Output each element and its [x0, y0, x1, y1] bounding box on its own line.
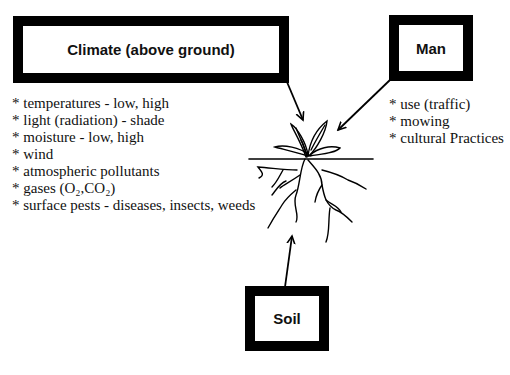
list-item: * surface pests - diseases, insects, wee… [12, 197, 255, 214]
man-label: Man [416, 40, 446, 57]
man-factors-list: * use (traffic) * mowing * cultural Prac… [389, 96, 504, 147]
list-item: * temperatures - low, high [12, 95, 255, 112]
soil-box: Soil [245, 286, 329, 351]
soil-label: Soil [273, 310, 301, 327]
climate-label: Climate (above ground) [67, 41, 235, 58]
list-item: * wind [12, 146, 255, 163]
arrow-man-to-plant [338, 79, 391, 130]
climate-box: Climate (above ground) [13, 16, 289, 83]
arrow-climate-to-plant [287, 82, 303, 120]
list-item: * gases (O₂,CO₂) [12, 180, 255, 197]
list-item: * atmospheric pollutants [12, 163, 255, 180]
list-item: * light (radiation) - shade [12, 112, 255, 129]
plant-illustration [249, 121, 373, 242]
list-item: * use (traffic) [389, 96, 504, 113]
list-item: * cultural Practices [389, 130, 504, 147]
man-box: Man [389, 15, 473, 81]
list-item: * mowing [389, 113, 504, 130]
climate-factors-list: * temperatures - low, high * light (radi… [12, 95, 255, 214]
arrow-soil-to-plant [285, 236, 292, 287]
list-item: * moisture - low, high [12, 129, 255, 146]
